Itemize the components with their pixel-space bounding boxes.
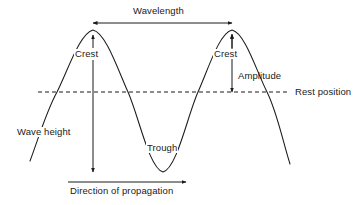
- trough-label: Trough: [146, 143, 178, 153]
- wave-diagram-canvas: [0, 0, 364, 205]
- wave-height-label: Wave height: [16, 127, 72, 137]
- wavelength-label: Wavelength: [133, 6, 184, 16]
- direction-of-propagation-label: Direction of propagation: [70, 186, 173, 196]
- wave-diagram: Wavelength Crest Crest Amplitude Rest po…: [0, 0, 364, 205]
- crest-left-label: Crest: [74, 49, 99, 59]
- crest-right-label: Crest: [213, 49, 238, 59]
- amplitude-label: Amplitude: [238, 71, 281, 81]
- rest-position-label: Rest position: [295, 87, 351, 97]
